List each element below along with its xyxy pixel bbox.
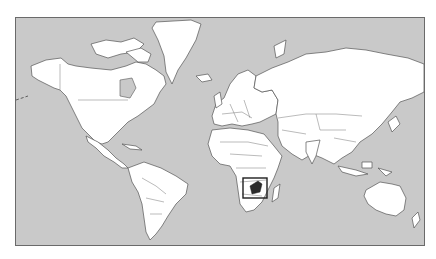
map-frame: [15, 17, 425, 246]
landmass-japan: [388, 116, 400, 132]
landmass-asia: [254, 48, 424, 164]
landmass-new-zealand: [412, 212, 420, 228]
landmass-cuba: [122, 144, 142, 150]
landmass-novaya-zemlya: [274, 40, 286, 58]
world-map: [16, 18, 425, 246]
landmass-madagascar: [272, 184, 280, 202]
landmass-australia: [364, 182, 406, 216]
landmass-africa: [208, 128, 282, 212]
landmass-iceland: [196, 74, 212, 82]
landmass-south-america: [128, 162, 188, 240]
international-date-line: [16, 96, 28, 100]
landmass-north-america: [31, 58, 166, 144]
